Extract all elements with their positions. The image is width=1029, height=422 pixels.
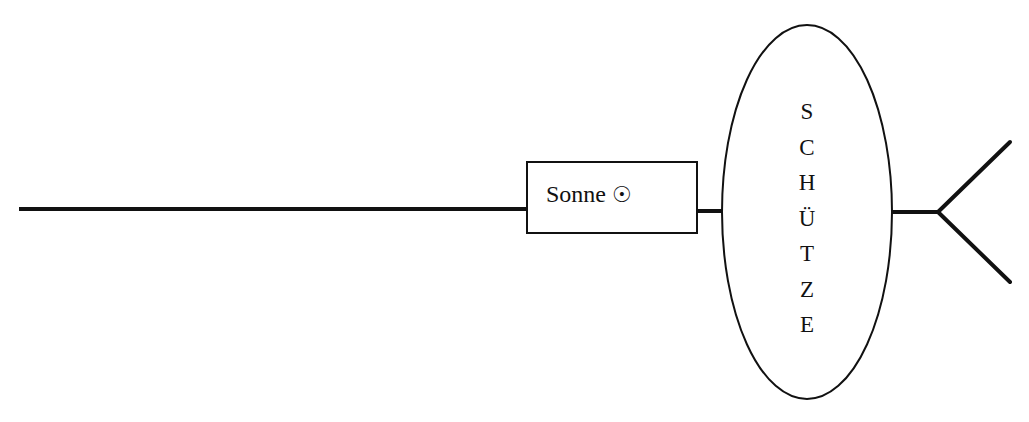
sun-symbol-icon: ☉	[612, 182, 632, 207]
ellipse-letter: Ü	[787, 201, 827, 237]
sun-label-text: Sonne	[546, 181, 606, 207]
ellipse-letter: H	[787, 165, 827, 201]
ellipse-letter: C	[787, 130, 827, 166]
ellipse-letter: T	[787, 236, 827, 272]
fork-upper-branch	[938, 142, 1010, 212]
fork-lower-branch	[938, 212, 1010, 282]
ellipse-letter: E	[787, 307, 827, 343]
diagram-canvas	[0, 0, 1029, 422]
sun-box-label: Sonne☉	[546, 180, 632, 209]
ellipse-letter: S	[787, 94, 827, 130]
ellipse-letter: Z	[787, 272, 827, 308]
ellipse-vertical-word: S C H Ü T Z E	[787, 94, 827, 343]
